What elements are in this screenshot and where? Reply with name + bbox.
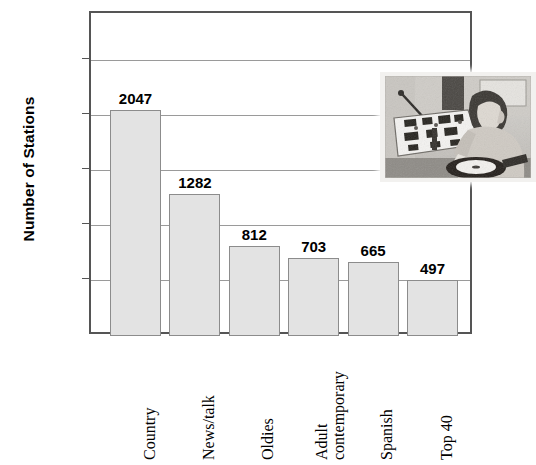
y-axis-title: Number of Stations xyxy=(20,59,38,279)
radio-dj-photo-icon xyxy=(380,72,536,182)
x-category-label-line: Adult xyxy=(313,424,330,460)
x-category-label: News/talk xyxy=(200,395,217,460)
bar-value-label: 665 xyxy=(341,242,406,259)
y-tick-mark-2000 xyxy=(82,113,89,114)
x-category-label: Adultcontemporary xyxy=(313,371,347,460)
y-tick-mark-1500 xyxy=(82,168,89,169)
bar xyxy=(288,258,339,336)
bar-value-label: 812 xyxy=(222,226,287,243)
x-category-label-line: News/talk xyxy=(200,395,217,460)
bar xyxy=(229,246,280,336)
x-category-label-line: Top 40 xyxy=(438,415,455,460)
plot-area: 20471282812703665497 xyxy=(89,11,472,334)
x-category-label-line: Oldies xyxy=(259,418,276,460)
bar-value-label: 2047 xyxy=(103,90,168,107)
bar xyxy=(169,194,220,336)
x-category-label: Country xyxy=(141,408,158,460)
gridline-2500 xyxy=(91,60,470,61)
x-category-label-line: contemporary xyxy=(330,371,347,460)
bar-value-label: 1282 xyxy=(162,174,227,191)
y-tick-mark-500 xyxy=(82,278,89,279)
x-category-label-line: Country xyxy=(141,408,158,460)
bar-value-label: 703 xyxy=(281,238,346,255)
bar xyxy=(407,280,458,336)
bar xyxy=(110,110,161,336)
x-category-label: Spanish xyxy=(378,409,395,460)
x-category-label: Oldies xyxy=(259,418,276,460)
bar xyxy=(348,262,399,336)
x-category-label-line: Spanish xyxy=(378,409,395,460)
y-tick-mark-2500 xyxy=(82,58,89,59)
x-category-label: Top 40 xyxy=(438,415,455,460)
y-tick-mark-1000 xyxy=(82,223,89,224)
inset-photo xyxy=(380,72,536,182)
bar-value-label: 497 xyxy=(400,260,465,277)
